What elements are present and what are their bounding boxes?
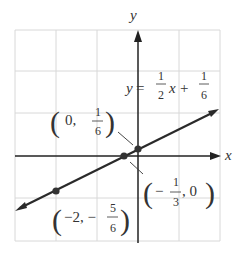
svg-text:): ) xyxy=(205,176,215,210)
svg-text:): ) xyxy=(120,203,130,237)
point-x-intercept xyxy=(120,152,127,159)
svg-text:0,: 0, xyxy=(65,112,76,128)
svg-text:5: 5 xyxy=(110,201,116,215)
x-axis-arrow-icon xyxy=(210,152,221,160)
svg-text:(: ( xyxy=(143,176,153,210)
svg-text:y: y xyxy=(124,80,133,96)
label-y-intercept: ( 0, 1 6 ) xyxy=(50,105,115,139)
svg-text:6: 6 xyxy=(110,221,116,235)
y-axis-label: y xyxy=(128,7,137,23)
svg-text:2: 2 xyxy=(158,88,164,102)
svg-text:1: 1 xyxy=(201,69,207,83)
y-axis-arrow-icon xyxy=(134,30,142,42)
svg-text:+: + xyxy=(180,80,188,96)
x-axis-label: x xyxy=(224,147,232,163)
svg-text:=: = xyxy=(136,80,144,96)
svg-text:1: 1 xyxy=(158,69,164,83)
point-neg2 xyxy=(52,187,59,194)
point-y-intercept xyxy=(134,145,141,152)
svg-text:(: ( xyxy=(50,105,60,139)
svg-text:3: 3 xyxy=(173,195,179,209)
svg-text:1: 1 xyxy=(95,105,101,119)
leader-y-intercept xyxy=(118,132,133,145)
svg-text:1: 1 xyxy=(173,175,179,189)
svg-text:6: 6 xyxy=(95,124,101,138)
line-arrow-left-icon xyxy=(15,202,27,211)
svg-text:, 0: , 0 xyxy=(182,183,197,199)
equation-label: y = 1 2 x + 1 6 xyxy=(124,69,209,102)
svg-text:): ) xyxy=(105,105,115,139)
svg-text:6: 6 xyxy=(201,88,207,102)
label-neg2: ( −2, − 5 6 ) xyxy=(52,201,130,237)
svg-text:−2, −: −2, − xyxy=(64,209,96,225)
svg-text:x: x xyxy=(168,80,176,96)
line-graph: x y y = 1 2 x + 1 6 ( 0, 1 6 ) ( − 1 3 ,… xyxy=(0,0,242,255)
leader-x-intercept xyxy=(130,162,143,174)
svg-text:(: ( xyxy=(52,203,62,237)
grid xyxy=(15,30,220,241)
svg-text:−: − xyxy=(155,183,163,199)
